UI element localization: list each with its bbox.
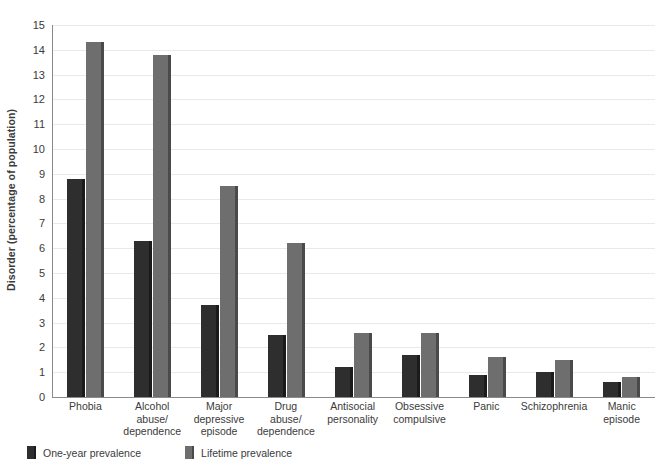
- y-axis-tick-label: 6: [39, 242, 45, 254]
- category-label-line: personality: [320, 413, 385, 426]
- bar-side: [283, 335, 286, 397]
- y-axis-tick-label: 13: [33, 69, 45, 81]
- y-axis-tick-label: 3: [39, 317, 45, 329]
- bar-face: [335, 367, 350, 397]
- bar-side: [570, 360, 573, 397]
- bar-face: [86, 42, 101, 397]
- legend-swatch-face: [185, 446, 192, 459]
- y-axis-tick-label: 4: [39, 292, 45, 304]
- category-label-line: Drug: [253, 400, 318, 413]
- x-axis-category-label: Panic: [453, 400, 520, 450]
- bar-group: [253, 25, 320, 397]
- bar-one-year: [402, 355, 420, 397]
- legend-swatch-icon: [185, 446, 194, 459]
- category-label-line: Alcohol: [120, 400, 185, 413]
- bar-side: [82, 179, 85, 397]
- bar-group: [119, 25, 186, 397]
- bar-one-year: [268, 335, 286, 397]
- bar-lifetime: [86, 42, 104, 397]
- bar-side: [637, 377, 640, 397]
- bar-face: [287, 243, 302, 397]
- category-label-line: episode: [187, 425, 252, 438]
- bar-face: [536, 372, 551, 397]
- y-axis-tick-label: 1: [39, 366, 45, 378]
- bar-group: [186, 25, 253, 397]
- bar-face: [354, 333, 369, 397]
- y-axis-tick-label: 7: [39, 217, 45, 229]
- category-label-line: dependence: [120, 425, 185, 438]
- category-label-line: Manic: [589, 400, 654, 413]
- bar-group: [320, 25, 387, 397]
- y-axis-tick-label: 15: [33, 19, 45, 31]
- bar-face: [488, 357, 503, 397]
- bar-face: [622, 377, 637, 397]
- bar-lifetime: [622, 377, 640, 397]
- bar-group: [454, 25, 521, 397]
- bar-side: [235, 186, 238, 397]
- category-label-line: Schizophrenia: [521, 400, 588, 413]
- bar-one-year: [335, 367, 353, 397]
- category-label-line: Major: [187, 400, 252, 413]
- bar-face: [402, 355, 417, 397]
- x-axis-category-label: Phobia: [52, 400, 119, 450]
- y-axis-tick-label: 0: [39, 391, 45, 403]
- y-axis-title-text: Disorder (percentage of population): [5, 109, 17, 291]
- bar-face: [201, 305, 216, 397]
- legend-swatch-side: [34, 446, 36, 459]
- bar-side: [350, 367, 353, 397]
- bar-face: [67, 179, 82, 397]
- bar-face: [268, 335, 283, 397]
- bar-lifetime: [354, 333, 372, 397]
- bar-side: [168, 55, 171, 397]
- bar-face: [134, 241, 149, 397]
- y-axis-tick-label: 2: [39, 341, 45, 353]
- category-label-line: episode: [589, 413, 654, 426]
- chart-plot-area: 0123456789101112131415: [52, 25, 655, 397]
- bar-side: [436, 333, 439, 397]
- chart-legend: One-year prevalenceLifetime prevalence: [27, 446, 292, 459]
- y-axis-tick-label: 5: [39, 267, 45, 279]
- bar-group: [387, 25, 454, 397]
- category-label-line: dependence: [253, 425, 318, 438]
- bar-one-year: [67, 179, 85, 397]
- category-label-line: compulsive: [387, 413, 452, 426]
- bar-group: [588, 25, 655, 397]
- bar-side: [417, 355, 420, 397]
- legend-item: Lifetime prevalence: [185, 446, 292, 459]
- y-axis-tick-label: 9: [39, 168, 45, 180]
- bar-side: [369, 333, 372, 397]
- legend-swatch-icon: [27, 446, 36, 459]
- bar-group: [521, 25, 588, 397]
- category-label-line: Antisocial: [320, 400, 385, 413]
- bar-lifetime: [555, 360, 573, 397]
- category-label-line: abuse/: [120, 413, 185, 426]
- y-axis-tick-label: 8: [39, 193, 45, 205]
- y-axis-tick-label: 11: [34, 118, 45, 130]
- x-axis-category-label: Majordepressiveepisode: [186, 400, 253, 450]
- bar-side: [101, 42, 104, 397]
- x-axis-category-label: Antisocialpersonality: [319, 400, 386, 450]
- legend-label: Lifetime prevalence: [201, 447, 292, 459]
- bar-face: [555, 360, 570, 397]
- x-axis-category-label: Obsessivecompulsive: [386, 400, 453, 450]
- y-axis-tick-label: 10: [33, 143, 45, 155]
- bar-group: [52, 25, 119, 397]
- bar-one-year: [134, 241, 152, 397]
- bar-side: [618, 382, 621, 397]
- legend-swatch-side: [192, 446, 194, 459]
- category-label-line: depressive: [187, 413, 252, 426]
- bar-face: [603, 382, 618, 397]
- bar-side: [551, 372, 554, 397]
- bar-one-year: [469, 375, 487, 397]
- x-axis-baseline: [52, 397, 655, 398]
- category-label-line: Obsessive: [387, 400, 452, 413]
- bar-lifetime: [488, 357, 506, 397]
- bar-side: [503, 357, 506, 397]
- legend-item: One-year prevalence: [27, 446, 141, 459]
- y-axis-tick-label: 12: [33, 93, 45, 105]
- bar-side: [149, 241, 152, 397]
- x-axis-category-labels: PhobiaAlcoholabuse/dependenceMajordepres…: [52, 400, 655, 450]
- x-axis-category-label: Alcoholabuse/dependence: [119, 400, 186, 450]
- x-axis-category-label: Schizophrenia: [520, 400, 589, 450]
- bar-one-year: [536, 372, 554, 397]
